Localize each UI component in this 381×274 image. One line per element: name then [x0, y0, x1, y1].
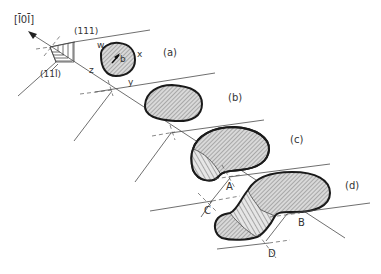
edge-label-b: b [120, 54, 126, 64]
edge-label-z: z [89, 65, 94, 75]
edge-label-y: y [128, 77, 134, 87]
panel-label-c: (c) [290, 134, 303, 145]
direction-label: [Ī0Ī] [14, 13, 34, 25]
plane-label-lower: (11Ī) [40, 69, 61, 79]
point-label-a: A [226, 181, 233, 192]
panel-b: (b) [145, 85, 242, 121]
plane-label-upper: (111) [74, 26, 98, 36]
loop-a [101, 43, 135, 76]
panel-label-a: (a) [163, 47, 177, 58]
edge-label-x: x [137, 49, 143, 59]
panel-d: (d) [215, 172, 359, 240]
point-label-c: C [204, 205, 211, 216]
panel-label-b: (b) [228, 92, 242, 103]
point-label-d: D [268, 248, 276, 259]
arrow-head-icon [28, 31, 37, 39]
edge-label-w: w [97, 40, 104, 50]
loop-b [145, 85, 202, 121]
point-label-b: B [298, 217, 305, 228]
panel-label-d: (d) [345, 180, 359, 191]
dislocation-loop-diagram: [Ī0Ī] (111) (11Ī) w x y z b (a) [0, 0, 381, 274]
